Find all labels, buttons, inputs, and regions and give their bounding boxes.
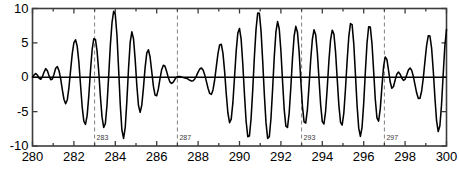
- x-tick-label-282: 282: [54, 149, 94, 164]
- x-tick-label-296: 296: [344, 149, 384, 164]
- chart-figure: -10-50510 280282284286288290292294296298…: [0, 0, 459, 174]
- x-tick-label-294: 294: [302, 149, 342, 164]
- marker-label-293: 293: [304, 134, 316, 141]
- x-tick-label-280: 280: [13, 149, 53, 164]
- x-tick-label-286: 286: [137, 149, 177, 164]
- marker-label-283: 283: [97, 134, 109, 141]
- x-tick-label-300: 300: [427, 149, 459, 164]
- y-tick-label--5: -5: [17, 104, 29, 119]
- x-tick-label-284: 284: [95, 149, 135, 164]
- x-tick-label-290: 290: [220, 149, 260, 164]
- y-tick-label-5: 5: [21, 35, 28, 50]
- waveform-plot: [0, 0, 459, 174]
- x-tick-label-298: 298: [385, 149, 425, 164]
- y-tick-label-10: 10: [14, 1, 28, 16]
- y-tick-label-0: 0: [21, 69, 28, 84]
- x-tick-label-292: 292: [261, 149, 301, 164]
- marker-label-297: 297: [386, 134, 398, 141]
- marker-label-287: 287: [179, 134, 191, 141]
- x-tick-label-288: 288: [178, 149, 218, 164]
